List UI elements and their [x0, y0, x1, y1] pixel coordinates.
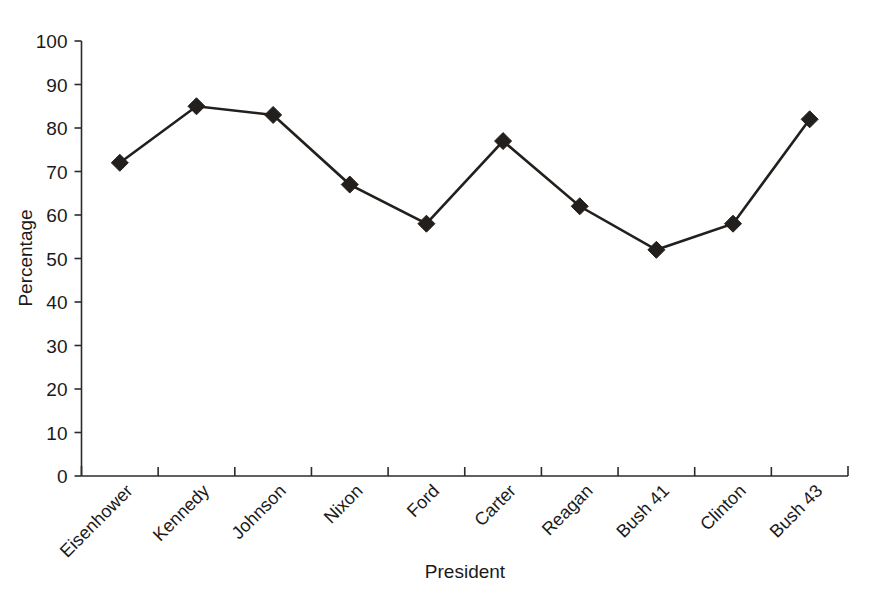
x-axis-title: President [425, 561, 506, 582]
chart-background [0, 0, 879, 607]
y-axis-tick-label: 0 [57, 466, 68, 487]
y-axis-tick-label: 80 [46, 118, 67, 139]
y-axis-tick-label: 30 [46, 336, 67, 357]
y-axis-tick-label: 40 [46, 292, 67, 313]
y-axis-tick-label: 50 [46, 249, 67, 270]
y-axis-tick-label: 90 [46, 75, 67, 96]
y-axis-tick-label: 70 [46, 162, 67, 183]
y-axis-tick-label: 60 [46, 205, 67, 226]
y-axis-tick-label: 100 [36, 31, 68, 52]
y-axis-tick-label: 10 [46, 423, 67, 444]
y-axis-title: Percentage [15, 209, 36, 306]
y-axis-tick-label: 20 [46, 379, 67, 400]
line-chart: 0102030405060708090100 EisenhowerKennedy… [0, 0, 879, 607]
chart-canvas: 0102030405060708090100 EisenhowerKennedy… [0, 0, 879, 607]
